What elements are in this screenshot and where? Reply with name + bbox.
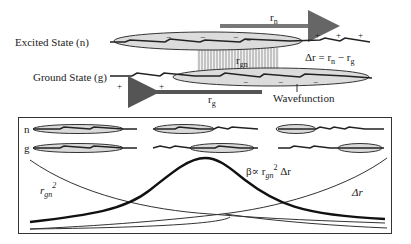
svg-text:−: − <box>243 77 248 87</box>
svg-text:−: − <box>313 77 318 87</box>
svg-text:+: + <box>117 81 122 91</box>
rgn-squared-label: rgn2 <box>40 181 56 199</box>
svg-text:+: + <box>358 30 363 40</box>
wavefunction-label: Wavefunction <box>273 92 335 104</box>
row-n-label: n <box>24 123 30 135</box>
svg-text:+: + <box>315 30 320 40</box>
bottom-panel: n g rgn2 β∝ rgn2 <box>19 118 392 234</box>
beta-curve <box>30 158 385 222</box>
delta-r-equation: Δr = rn − rg <box>305 51 354 66</box>
top-schematic: rn rgn Excited State (n) − − − − + + + Δ… <box>15 11 372 108</box>
delta-r-curve <box>30 158 387 229</box>
pair-small-overlap <box>276 125 384 153</box>
svg-text:−: − <box>278 77 283 87</box>
pair-large-overlap <box>33 125 137 153</box>
excited-state-label: Excited State (n) <box>15 36 89 49</box>
svg-text:−: − <box>200 32 205 42</box>
ground-state-cloud <box>173 68 369 86</box>
row-g-label: g <box>24 142 30 154</box>
rn-label: rn <box>270 11 278 26</box>
svg-text:+: + <box>336 30 341 40</box>
rg-label: rg <box>208 93 216 108</box>
svg-text:−: − <box>246 35 251 45</box>
beta-proportionality-label: β∝ rgn2 Δr <box>246 163 291 180</box>
diagram-canvas: rn rgn Excited State (n) − − − − + + + Δ… <box>0 0 411 244</box>
svg-text:+: + <box>159 81 164 91</box>
ground-state-label: Ground State (g) <box>33 71 107 84</box>
ground-plus-charges: + + + <box>117 81 164 91</box>
svg-text:+: + <box>138 81 143 91</box>
svg-text:−: − <box>166 32 171 42</box>
delta-r-label: Δr <box>351 186 363 198</box>
pair-medium-overlap <box>153 125 258 153</box>
svg-text:−: − <box>233 32 238 42</box>
